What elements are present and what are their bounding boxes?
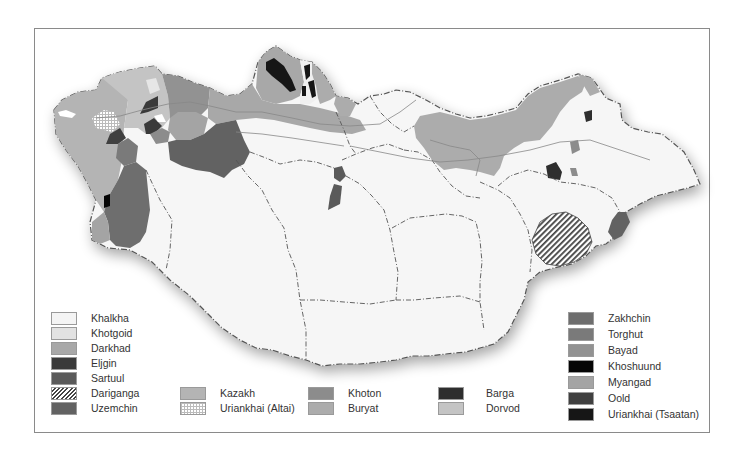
legend-swatch bbox=[438, 387, 464, 400]
legend-swatch bbox=[568, 312, 594, 325]
legend-label: Dorvod bbox=[486, 402, 520, 414]
legend-label: Zakhchin bbox=[608, 312, 651, 324]
legend-swatch bbox=[180, 387, 206, 400]
legend-label: Khalkha bbox=[91, 312, 129, 324]
legend-label: Oold bbox=[608, 392, 630, 404]
legend-swatch bbox=[308, 387, 334, 400]
legend-item-uriankhai-tsaatan: Uriankhai (Tsaatan) bbox=[568, 407, 699, 421]
region-uriankhai-tsaatan-w bbox=[104, 194, 110, 208]
legend-item-sartuul: Sartuul bbox=[51, 371, 124, 385]
legend-swatch bbox=[568, 328, 594, 341]
legend-swatch-dotted bbox=[180, 402, 206, 415]
legend-item-kazakh: Kazakh bbox=[180, 386, 255, 400]
legend-swatch bbox=[51, 402, 77, 415]
legend-item-myangad: Myangad bbox=[568, 375, 651, 389]
legend-item-barga: Barga bbox=[438, 386, 514, 400]
legend-label: Uriankhai (Tsaatan) bbox=[608, 408, 699, 420]
legend-swatch bbox=[568, 344, 594, 357]
legend-item-uzemchin: Uzemchin bbox=[51, 401, 138, 415]
legend-item-khalkha: Khalkha bbox=[51, 311, 129, 325]
legend-swatch bbox=[568, 408, 594, 421]
legend-item-khoton: Khoton bbox=[308, 386, 381, 400]
legend-label: Uzemchin bbox=[91, 402, 138, 414]
region-tsaatan-4 bbox=[302, 86, 306, 96]
legend-label: Kazakh bbox=[220, 387, 255, 399]
legend-swatch bbox=[51, 372, 77, 385]
legend-swatch bbox=[51, 327, 77, 340]
legend-item-dariganga: Dariganga bbox=[51, 386, 139, 400]
legend-label: Dariganga bbox=[91, 387, 139, 399]
legend-item-khotgoid: Khotgoid bbox=[51, 326, 132, 340]
legend-label: Barga bbox=[486, 387, 514, 399]
legend-item-zakhchin: Zakhchin bbox=[568, 311, 651, 325]
legend-item-eljgin: Eljgin bbox=[51, 356, 117, 370]
legend-item-buryat: Buryat bbox=[308, 401, 378, 415]
legend-item-bayad: Bayad bbox=[568, 343, 638, 357]
legend-swatch bbox=[51, 357, 77, 370]
legend-item-uriankhai-altai: Uriankhai (Altai) bbox=[180, 401, 295, 415]
legend-label: Uriankhai (Altai) bbox=[220, 402, 295, 414]
legend-label: Khoshuund bbox=[608, 360, 661, 372]
legend-label: Khotgoid bbox=[91, 327, 132, 339]
legend-label: Bayad bbox=[608, 344, 638, 356]
legend-swatch bbox=[438, 402, 464, 415]
legend-swatch bbox=[51, 312, 77, 325]
legend-label: Khoton bbox=[348, 387, 381, 399]
legend-label: Myangad bbox=[608, 376, 651, 388]
legend-label: Torghut bbox=[608, 328, 643, 340]
legend-swatch bbox=[568, 392, 594, 405]
legend-swatch bbox=[51, 342, 77, 355]
legend-label: Eljgin bbox=[91, 357, 117, 369]
legend-label: Sartuul bbox=[91, 372, 124, 384]
legend-item-khoshuund: Khoshuund bbox=[568, 359, 661, 373]
legend-label: Darkhad bbox=[91, 342, 131, 354]
legend-label: Buryat bbox=[348, 402, 378, 414]
legend-item-oold: Oold bbox=[568, 391, 630, 405]
legend-item-darkhad: Darkhad bbox=[51, 341, 131, 355]
legend-swatch-hatched bbox=[51, 387, 77, 400]
legend-swatch bbox=[568, 360, 594, 373]
legend-item-torghut: Torghut bbox=[568, 327, 643, 341]
legend-item-dorvod: Dorvod bbox=[438, 401, 520, 415]
legend-swatch bbox=[568, 376, 594, 389]
legend-swatch bbox=[308, 402, 334, 415]
